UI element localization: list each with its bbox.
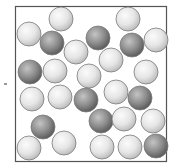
light-particle xyxy=(52,131,76,155)
dark-particle xyxy=(120,33,144,57)
light-particle xyxy=(112,107,136,131)
light-particle xyxy=(43,59,67,83)
light-particle xyxy=(104,80,128,104)
light-particle xyxy=(134,60,158,84)
light-particle xyxy=(64,40,88,64)
dark-particle xyxy=(31,115,55,139)
light-particle xyxy=(20,87,44,111)
particle-box-diagram xyxy=(0,0,176,168)
dark-particle xyxy=(74,88,98,112)
dark-particle xyxy=(18,60,42,84)
light-particle xyxy=(141,109,165,133)
dark-particle xyxy=(86,26,110,50)
light-particle xyxy=(144,28,168,52)
dark-particle xyxy=(144,134,168,158)
light-particle xyxy=(17,136,41,160)
light-particle xyxy=(17,22,41,46)
light-particle xyxy=(49,7,73,31)
light-particle xyxy=(116,7,140,31)
light-particle xyxy=(90,135,114,159)
dark-particle xyxy=(89,109,113,133)
dark-particle xyxy=(128,86,152,110)
light-particle xyxy=(48,85,72,109)
dark-particle xyxy=(40,31,64,55)
light-particle xyxy=(77,64,101,88)
light-particle xyxy=(99,48,123,72)
light-particle xyxy=(118,135,142,159)
